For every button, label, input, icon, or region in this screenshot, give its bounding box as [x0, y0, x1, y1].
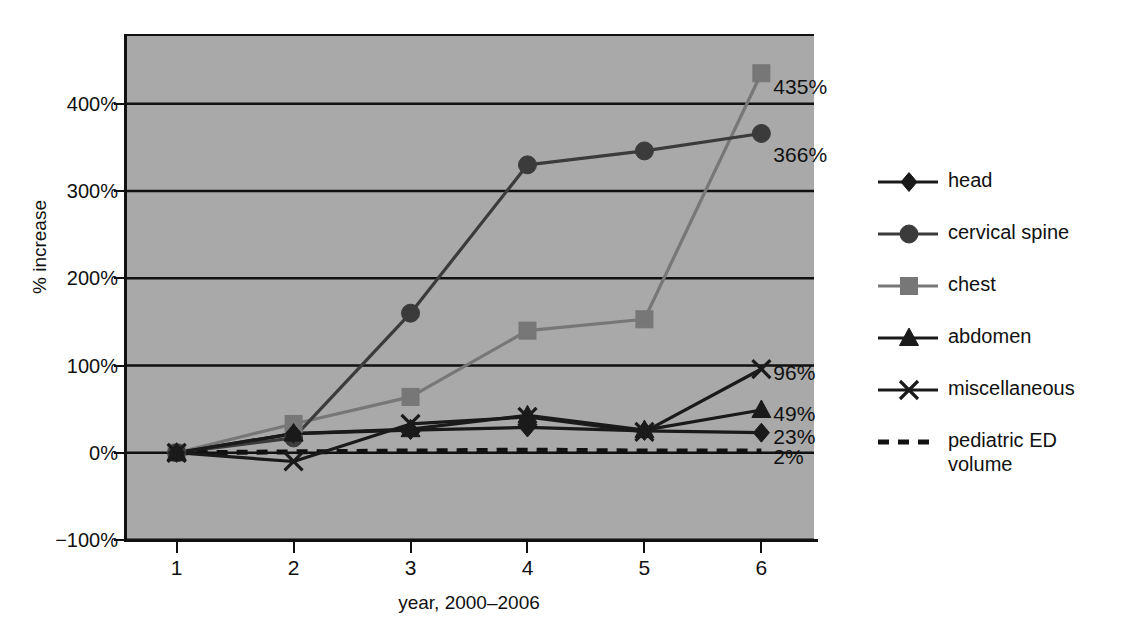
legend-item-pediatric-ED-volume[interactable]: pediatric ED volume	[876, 428, 1126, 486]
square-marker	[901, 278, 918, 295]
x-tick-label: 3	[381, 556, 441, 580]
circle-marker-icon	[876, 221, 942, 247]
y-axis-tick-labels: 400%300%200%100%0%−100%	[14, 34, 118, 540]
y-tick-mark	[114, 103, 124, 105]
x-tick-label: 2	[264, 556, 324, 580]
legend-item-label: miscellaneous	[942, 376, 1075, 400]
plot-frame	[124, 34, 814, 540]
y-tick-label: 200%	[26, 268, 118, 288]
x-tick-mark	[760, 542, 762, 553]
x-tick-mark	[410, 542, 412, 553]
x-tick-mark	[643, 542, 645, 553]
y-tick-mark	[114, 277, 124, 279]
x-tick-label: 6	[731, 556, 791, 580]
y-tick-mark	[114, 539, 124, 541]
x-axis-tick-labels: 123456	[124, 556, 814, 584]
legend-item-abdomen[interactable]: abdomen	[876, 324, 1126, 376]
x-marker-icon	[876, 377, 942, 403]
y-tick-mark	[114, 365, 124, 367]
legend-item-label: abdomen	[942, 324, 1031, 348]
legend-item-label: cervical spine	[942, 220, 1069, 244]
diamond-marker-icon	[876, 169, 942, 195]
legend-item-chest[interactable]: chest	[876, 272, 1126, 324]
legend-item-label: head	[942, 168, 993, 192]
square-marker-icon	[876, 273, 942, 299]
x-tick-mark	[176, 542, 178, 553]
legend-item-label: pediatric ED volume	[942, 428, 1124, 476]
y-tick-label: 100%	[26, 356, 118, 376]
legend-item-miscellaneous[interactable]: miscellaneous	[876, 376, 1126, 428]
diamond-marker	[901, 173, 917, 192]
legend-item-label: chest	[942, 272, 996, 296]
y-tick-mark	[114, 190, 124, 192]
triangle-marker-icon	[876, 325, 942, 351]
x-tick-mark	[293, 542, 295, 553]
circle-marker	[900, 225, 918, 243]
x-tick-label: 1	[147, 556, 207, 580]
y-tick-label: 300%	[26, 181, 118, 201]
x-tick-label: 4	[497, 556, 557, 580]
legend-item-cervical-spine[interactable]: cervical spine	[876, 220, 1126, 272]
chart-figure: % increase 400%300%200%100%0%−100% 12345…	[0, 0, 1134, 636]
x-tick-label: 5	[614, 556, 674, 580]
x-tick-mark	[526, 542, 528, 553]
x-axis-title: year, 2000–2006	[124, 592, 814, 614]
x-axis-tick-marks	[124, 542, 814, 554]
y-tick-label: 0%	[26, 443, 118, 463]
y-tick-label: −100%	[26, 530, 118, 550]
plot-area	[124, 34, 814, 540]
chart-legend: headcervical spinechestabdomenmiscellane…	[876, 168, 1126, 486]
dashed-line-icon	[876, 429, 942, 455]
legend-item-head[interactable]: head	[876, 168, 1126, 220]
y-tick-label: 400%	[26, 94, 118, 114]
y-tick-mark	[114, 452, 124, 454]
